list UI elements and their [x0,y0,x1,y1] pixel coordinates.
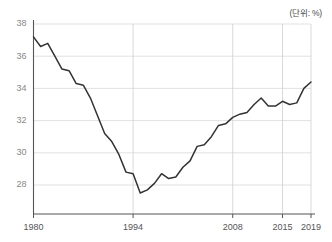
y-tick-label: 28 [16,179,26,189]
x-tick-label: 2015 [273,222,293,232]
y-tick-label: 32 [16,115,26,125]
y-tick-label: 38 [16,18,26,28]
gridlines-group [34,24,312,185]
y-axis-tick-labels: 283032343638 [16,18,26,189]
y-tick-label: 30 [16,147,26,157]
chart-container: (단위: %) 283032343638 1980199420082015201… [0,0,332,242]
y-tick-label: 36 [16,51,26,61]
x-tick-label: 2019 [301,222,321,232]
tick-marks-group [34,214,312,218]
y-tick-label: 34 [16,83,26,93]
line-chart-plot: 283032343638 19801994200820152019 [0,0,332,242]
x-tick-label: 2008 [223,222,243,232]
x-tick-label: 1980 [23,222,43,232]
vertical-gridlines-group [133,24,311,214]
data-series-line [34,37,312,193]
x-tick-label: 1994 [123,222,143,232]
x-axis-tick-labels: 19801994200820152019 [23,222,321,232]
